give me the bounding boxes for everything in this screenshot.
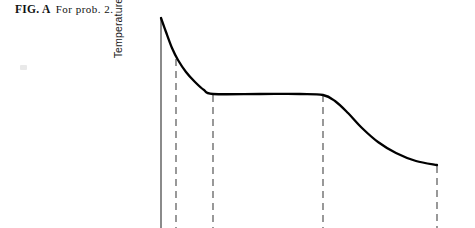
cooling-curve-chart: [0, 0, 475, 228]
temperature-curve: [161, 18, 437, 165]
figure-page: FIG. AFor prob. 2. Temperature: [0, 0, 475, 228]
y-axis-label: Temperature: [112, 0, 126, 83]
